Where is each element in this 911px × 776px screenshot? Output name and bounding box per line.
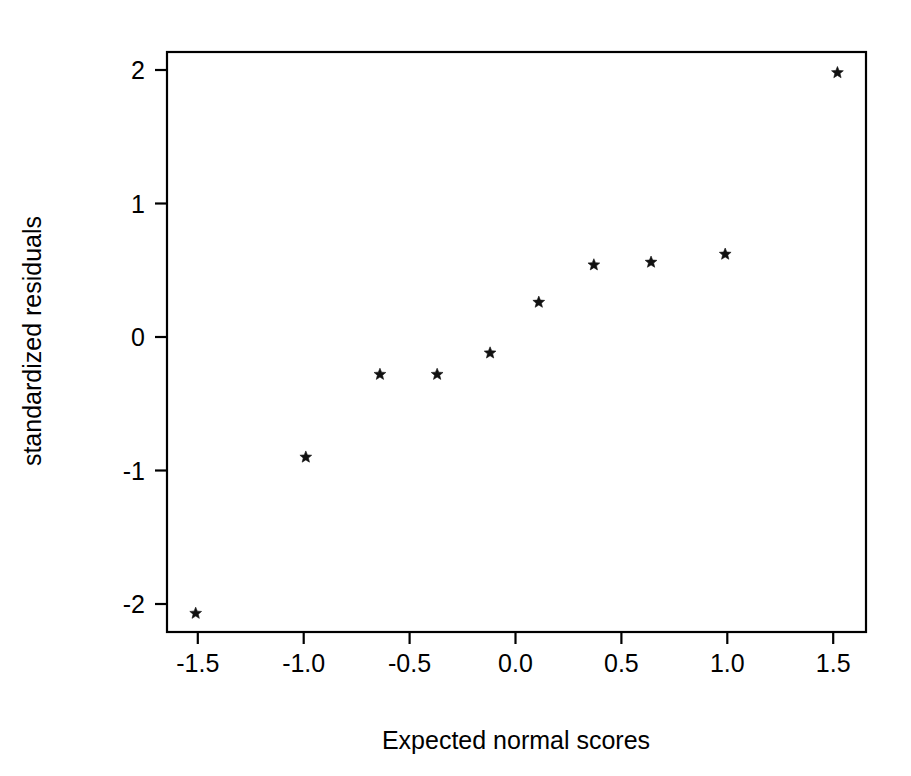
- data-point-marker: [431, 368, 443, 379]
- y-axis-tick-labels: -2-1012: [123, 56, 145, 618]
- data-point-marker: [374, 368, 386, 379]
- data-point-marker: [190, 607, 202, 618]
- y-axis-ticks: [155, 70, 167, 604]
- data-point-marker: [533, 296, 545, 307]
- x-axis-tick-labels: -1.5-1.0-0.50.00.51.01.5: [176, 649, 850, 677]
- data-point-marker: [484, 347, 496, 358]
- data-point-markers: [190, 66, 844, 618]
- y-tick-label: 1: [131, 190, 145, 218]
- data-point-marker: [645, 256, 657, 267]
- x-tick-label: 0.0: [498, 649, 533, 677]
- x-tick-label: -1.0: [282, 649, 325, 677]
- data-point-marker: [588, 259, 600, 270]
- data-point-marker: [300, 451, 312, 462]
- x-axis-ticks: [198, 632, 833, 644]
- data-point-marker: [719, 248, 731, 259]
- x-axis-title: Expected normal scores: [382, 726, 650, 754]
- x-tick-label: 0.5: [604, 649, 639, 677]
- scatter-plot-canvas: -2-1012 -1.5-1.0-0.50.00.51.01.5 Expecte…: [0, 0, 911, 776]
- x-tick-label: 1.0: [710, 649, 745, 677]
- y-tick-label: 0: [131, 323, 145, 351]
- x-tick-label: 1.5: [816, 649, 851, 677]
- x-tick-label: -1.5: [176, 649, 219, 677]
- y-tick-label: -1: [123, 457, 145, 485]
- data-point-marker: [832, 66, 844, 77]
- plot-frame-box: [167, 52, 866, 632]
- qq-plot-figure: -2-1012 -1.5-1.0-0.50.00.51.01.5 Expecte…: [0, 0, 911, 776]
- x-tick-label: -0.5: [388, 649, 431, 677]
- y-axis-title: standardized residuals: [18, 216, 46, 466]
- y-tick-label: 2: [131, 56, 145, 84]
- y-tick-label: -2: [123, 590, 145, 618]
